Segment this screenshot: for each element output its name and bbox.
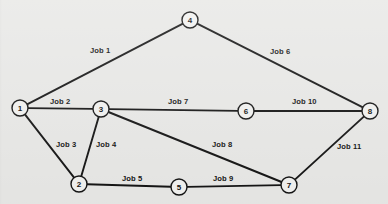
edge-job-8 bbox=[108, 112, 281, 182]
node-label-1: 1 bbox=[18, 104, 23, 113]
node-1[interactable]: 1 bbox=[12, 100, 28, 116]
node-label-6: 6 bbox=[244, 107, 249, 116]
edge-label-job-3: Job 3 bbox=[56, 141, 76, 149]
edge-label-job-6: Job 6 bbox=[270, 48, 290, 56]
edge-label-job-9: Job 9 bbox=[213, 175, 233, 183]
edge-label-job-1: Job 1 bbox=[90, 47, 110, 55]
node-label-2: 2 bbox=[77, 180, 82, 189]
edge-job-1 bbox=[27, 24, 183, 105]
node-6[interactable]: 6 bbox=[238, 103, 254, 119]
node-label-4: 4 bbox=[188, 16, 193, 25]
node-label-7: 7 bbox=[287, 181, 292, 190]
node-2[interactable]: 2 bbox=[71, 176, 87, 192]
edge-label-job-7: Job 7 bbox=[168, 98, 188, 106]
node-label-8: 8 bbox=[368, 107, 373, 116]
edge-label-job-5: Job 5 bbox=[122, 175, 142, 183]
edge-label-job-8: Job 8 bbox=[212, 141, 232, 149]
edge-label-job-11: Job 11 bbox=[337, 143, 361, 151]
node-label-5: 5 bbox=[177, 183, 182, 192]
node-3[interactable]: 3 bbox=[93, 101, 109, 117]
edge-job-2 bbox=[28, 108, 93, 109]
diagram-canvas: 12345678 Job 1Job 2Job 3Job 4Job 5Job 6J… bbox=[0, 0, 388, 204]
edge-label-job-10: Job 10 bbox=[292, 98, 317, 106]
node-7[interactable]: 7 bbox=[281, 177, 297, 193]
node-5[interactable]: 5 bbox=[171, 179, 187, 195]
node-4[interactable]: 4 bbox=[182, 12, 198, 28]
edge-label-job-4: Job 4 bbox=[96, 141, 116, 149]
node-8[interactable]: 8 bbox=[362, 103, 378, 119]
edge-job-7 bbox=[109, 109, 238, 111]
edge-job-6 bbox=[197, 24, 363, 108]
edge-job-5 bbox=[87, 184, 171, 187]
edge-label-job-2: Job 2 bbox=[50, 98, 70, 106]
node-label-3: 3 bbox=[99, 105, 104, 114]
edge-job-9 bbox=[187, 185, 281, 187]
